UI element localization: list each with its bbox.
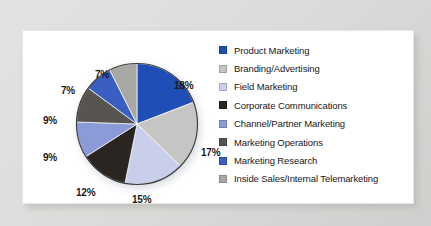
legend-item[interactable]: Marketing Research — [219, 151, 411, 169]
legend-item[interactable]: Channel/Partner Marketing — [219, 115, 411, 133]
legend-color-swatch — [219, 65, 227, 73]
legend-item[interactable]: Marketing Operations — [219, 133, 411, 151]
legend-item-label: Channel/Partner Marketing — [234, 118, 345, 129]
legend-item-label: Inside Sales/Internal Telemarketing — [234, 173, 378, 184]
pie-percent-label: 15% — [132, 194, 151, 205]
legend-item[interactable]: Inside Sales/Internal Telemarketing — [219, 170, 411, 188]
legend-item[interactable]: Product Marketing — [219, 41, 411, 59]
pie-percent-label: 12% — [76, 187, 95, 198]
legend-color-swatch — [219, 83, 227, 91]
legend-item-label: Marketing Operations — [234, 137, 323, 148]
pie-percent-label: 18% — [174, 80, 193, 91]
legend-color-swatch — [219, 138, 227, 146]
legend-item-label: Field Marketing — [234, 81, 297, 92]
pie-chart-area: 18%17%15%12%9%9%7%7% — [31, 35, 221, 203]
legend-item-label: Product Marketing — [234, 45, 309, 56]
pie-percent-label: 7% — [95, 69, 109, 80]
legend-item[interactable]: Field Marketing — [219, 78, 411, 96]
chart-card: 18%17%15%12%9%9%7%7% Product MarketingBr… — [22, 30, 414, 204]
legend-item[interactable]: Branding/Advertising — [219, 59, 411, 77]
legend-item-label: Corporate Communications — [234, 100, 347, 111]
pie-percent-label: 7% — [61, 85, 75, 96]
pie-percent-label: 17% — [201, 147, 220, 158]
legend-color-swatch — [219, 46, 227, 54]
pie-percent-label: 9% — [43, 115, 57, 126]
legend-color-swatch — [219, 101, 227, 109]
pie-percent-label: 9% — [43, 152, 57, 163]
legend-item[interactable]: Corporate Communications — [219, 96, 411, 114]
figure-frame: 18%17%15%12%9%9%7%7% Product MarketingBr… — [0, 0, 431, 226]
legend-color-swatch — [219, 157, 227, 165]
legend-color-swatch — [219, 175, 227, 183]
legend-item-label: Branding/Advertising — [234, 63, 320, 74]
legend-item-label: Marketing Research — [234, 155, 317, 166]
chart-legend: Product MarketingBranding/AdvertisingFie… — [219, 41, 411, 188]
legend-color-swatch — [219, 120, 227, 128]
